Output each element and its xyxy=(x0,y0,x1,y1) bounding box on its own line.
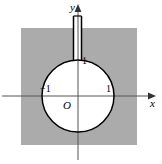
y-tick-label-positive-one: 1 xyxy=(82,56,87,66)
x-tick-label-negative-one: −1 xyxy=(40,84,51,94)
y-axis-label: y xyxy=(70,2,75,13)
x-axis-label: x xyxy=(150,98,155,109)
y-axis-arrowhead xyxy=(75,4,82,12)
figure-container: y x O −1 1 1 xyxy=(0,0,162,164)
origin-label: O xyxy=(63,100,71,111)
x-tick-label-positive-one: 1 xyxy=(106,84,111,94)
unit-circle-diagram xyxy=(0,0,162,164)
